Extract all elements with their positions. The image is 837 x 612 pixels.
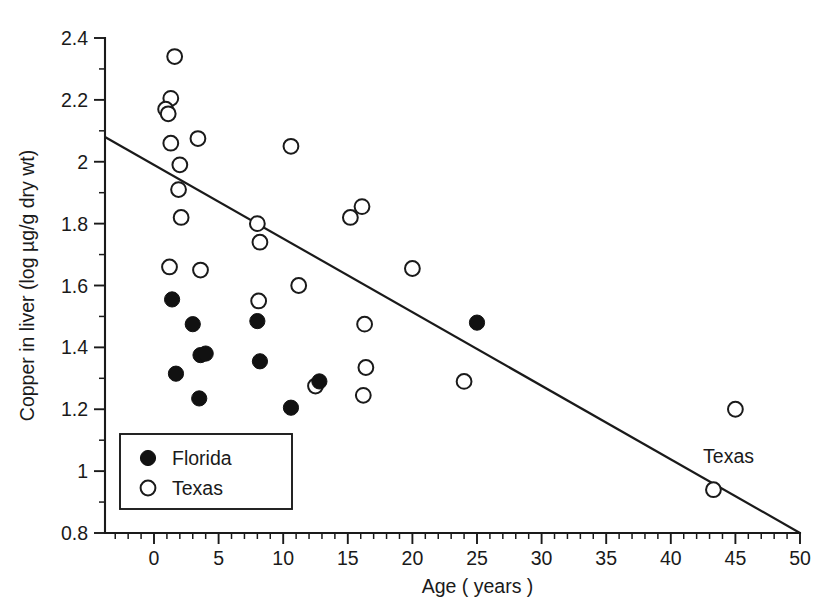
- x-tick-label: 40: [660, 547, 682, 569]
- x-tick-label: 35: [595, 547, 617, 569]
- y-axis-title: Copper in liver (log µg/g dry wt): [16, 150, 38, 421]
- data-point-texas: [284, 139, 299, 154]
- data-point-texas: [161, 106, 176, 121]
- y-tick-label: 1.8: [61, 213, 88, 235]
- y-axis-major-ticks: [94, 38, 105, 533]
- data-point-texas: [250, 216, 265, 231]
- x-tick-label: 5: [213, 547, 224, 569]
- data-point-texas: [457, 374, 472, 389]
- data-point-florida: [185, 317, 200, 332]
- data-point-texas: [167, 49, 182, 64]
- x-axis-title: Age ( years ): [422, 575, 534, 597]
- data-point-texas: [356, 388, 371, 403]
- legend-label-texas: Texas: [172, 477, 223, 499]
- data-point-florida: [192, 391, 207, 406]
- data-point-texas: [253, 235, 268, 250]
- x-tick-label: 15: [337, 547, 359, 569]
- data-point-florida: [252, 354, 267, 369]
- legend: Florida Texas: [120, 434, 292, 509]
- x-axis-tick-labels: 05101520253035404550: [149, 547, 811, 569]
- legend-marker-texas: [141, 481, 156, 496]
- data-point-texas: [171, 182, 186, 197]
- data-point-florida: [198, 346, 213, 361]
- regression-line-label: Texas: [703, 445, 754, 467]
- legend-label-florida: Florida: [172, 447, 232, 469]
- data-point-texas: [355, 199, 370, 214]
- y-tick-label: 2: [77, 151, 88, 173]
- y-tick-label: 0.8: [61, 522, 88, 544]
- data-point-texas: [162, 260, 177, 275]
- data-point-florida: [164, 292, 179, 307]
- data-point-texas: [163, 136, 178, 151]
- data-point-texas: [291, 278, 306, 293]
- y-tick-label: 1: [77, 460, 88, 482]
- data-point-texas: [357, 317, 372, 332]
- scatter-plot-figure: 0.811.21.41.61.822.22.4 0510152025303540…: [0, 0, 837, 612]
- data-point-texas: [172, 157, 187, 172]
- x-tick-label: 10: [272, 547, 294, 569]
- data-point-texas: [358, 360, 373, 375]
- series-texas-points: [158, 49, 743, 497]
- data-point-texas: [191, 131, 206, 146]
- y-tick-label: 1.2: [61, 398, 88, 420]
- x-tick-label: 45: [725, 547, 747, 569]
- data-point-texas: [193, 263, 208, 278]
- y-axis-tick-labels: 0.811.21.41.61.822.22.4: [61, 27, 88, 544]
- y-tick-label: 2.4: [61, 27, 88, 49]
- x-tick-label: 20: [402, 547, 424, 569]
- data-point-texas: [728, 402, 743, 417]
- x-tick-label: 30: [531, 547, 553, 569]
- data-point-florida: [168, 366, 183, 381]
- data-point-texas: [174, 210, 189, 225]
- data-point-texas: [343, 210, 358, 225]
- y-tick-label: 1.4: [61, 336, 88, 358]
- plot-canvas: 0.811.21.41.61.822.22.4 0510152025303540…: [0, 0, 837, 612]
- data-point-florida: [469, 315, 484, 330]
- data-point-texas: [706, 482, 721, 497]
- y-tick-label: 2.2: [61, 89, 88, 111]
- data-point-texas: [251, 294, 266, 309]
- data-point-florida: [283, 400, 298, 415]
- y-tick-label: 1.6: [61, 275, 88, 297]
- x-tick-label: 25: [466, 547, 488, 569]
- x-tick-label: 50: [789, 547, 811, 569]
- series-florida-points: [164, 292, 484, 415]
- legend-marker-florida: [140, 450, 155, 465]
- data-point-florida: [250, 313, 265, 328]
- data-point-florida: [312, 374, 327, 389]
- data-point-texas: [405, 261, 420, 276]
- x-axis-major-ticks: [154, 533, 800, 544]
- x-tick-label: 0: [149, 547, 160, 569]
